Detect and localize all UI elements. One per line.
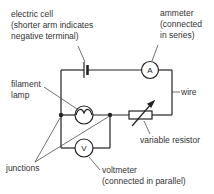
label-ammeter-3: in series): [160, 30, 195, 40]
label-cell-1: electric cell: [11, 9, 53, 19]
label-lamp-1: filament: [11, 79, 41, 89]
leader-resistor: [144, 121, 150, 134]
label-wire: wire: [180, 87, 197, 97]
filament-lamp-icon: [75, 106, 93, 124]
circuit-diagram: A V electric cell (shorter arm indicates…: [0, 0, 214, 194]
label-lamp-2: lamp: [11, 90, 30, 100]
variable-resistor-icon: [129, 111, 152, 119]
label-ammeter-2: (connected: [160, 19, 202, 29]
junction-left: [59, 113, 63, 117]
leader-voltmeter: [89, 157, 100, 170]
leader-junction-left: [35, 118, 60, 162]
ammeter-symbol: A: [147, 66, 153, 75]
leader-ammeter: [152, 45, 158, 61]
label-cell-3: negative terminal): [11, 31, 79, 41]
voltmeter-symbol: V: [81, 144, 87, 153]
label-variable-resistor: variable resistor: [140, 135, 200, 145]
junction-right: [108, 113, 112, 117]
leader-junction-right: [35, 117, 108, 162]
label-ammeter-1: ammeter: [160, 8, 194, 18]
label-voltmeter-1: voltmeter: [102, 165, 137, 175]
label-voltmeter-2: (connected in parallel): [102, 176, 186, 186]
label-cell-2: (shorter arm indicates: [11, 20, 93, 30]
label-junctions: junctions: [5, 163, 40, 173]
leader-cell: [78, 46, 85, 62]
